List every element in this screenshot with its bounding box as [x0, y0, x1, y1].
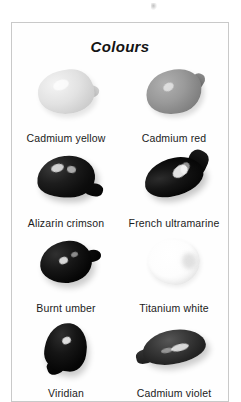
- paint-blob-icon: [142, 330, 206, 364]
- swatch-label: Cadmium violet: [120, 387, 228, 399]
- swatch-label: Alizarin crimson: [12, 217, 120, 229]
- page-title: Colours: [12, 38, 228, 55]
- swatch-row: Viridian Cadmium violet: [12, 317, 228, 402]
- swatch-label: Burnt umber: [12, 302, 120, 314]
- paint-blob-icon: [38, 70, 94, 114]
- swatch-label: Cadmium yellow: [12, 132, 120, 144]
- colour-plate-frame: Colours Cadmium yellow: [11, 22, 229, 402]
- swatch-label: Titanium white: [120, 302, 228, 314]
- swatch-cell-alizarin-crimson: Alizarin crimson: [12, 147, 120, 232]
- paint-blob-icon: [40, 241, 92, 283]
- swatch-blob-area: [12, 232, 120, 292]
- swatch-label: Viridian: [12, 387, 120, 399]
- paint-blob-icon: [45, 323, 87, 371]
- swatch-blob-area: [120, 317, 228, 377]
- swatch-blob-area: [120, 62, 228, 122]
- swatch-blob-area: [12, 317, 120, 377]
- swatch-cell-cadmium-red: Cadmium red: [120, 62, 228, 147]
- swatch-blob-area: [12, 62, 120, 122]
- paint-blob-icon: [144, 158, 204, 196]
- swatch-cell-french-ultramarine: French ultramarine: [120, 147, 228, 232]
- swatch-cell-burnt-umber: Burnt umber: [12, 232, 120, 317]
- colour-swatch-grid: Cadmium yellow Cadmium red: [12, 62, 228, 402]
- swatch-cell-cadmium-violet: Cadmium violet: [120, 317, 228, 402]
- scan-artifact-speck: [151, 3, 157, 10]
- paint-blob-icon: [37, 156, 95, 198]
- swatch-cell-titanium-white: Titanium white: [120, 232, 228, 317]
- swatch-blob-area: [120, 232, 228, 292]
- swatch-cell-cadmium-yellow: Cadmium yellow: [12, 62, 120, 147]
- swatch-row: Cadmium yellow Cadmium red: [12, 62, 228, 147]
- swatch-row: Burnt umber Titanium white: [12, 232, 228, 317]
- paint-blob-icon: [146, 70, 202, 114]
- swatch-blob-area: [12, 147, 120, 207]
- swatch-row: Alizarin crimson French ultramarine: [12, 147, 228, 232]
- swatch-label: Cadmium red: [120, 132, 228, 144]
- swatch-label: French ultramarine: [120, 217, 228, 229]
- paint-blob-icon: [148, 239, 200, 285]
- swatch-cell-viridian: Viridian: [12, 317, 120, 402]
- swatch-blob-area: [120, 147, 228, 207]
